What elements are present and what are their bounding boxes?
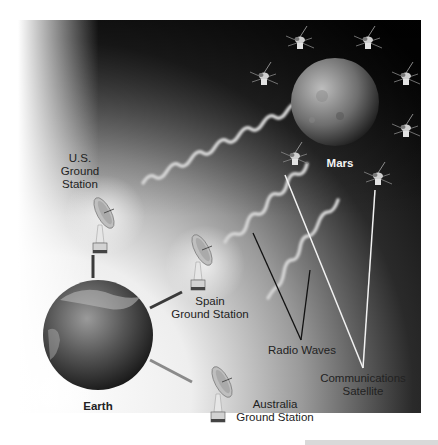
- us-ground-station-label: U.S. Ground Station: [55, 152, 105, 191]
- radio-waves-label: Radio Waves: [262, 344, 342, 357]
- mars-planet: [291, 58, 379, 146]
- earth-label: Earth: [70, 400, 126, 413]
- spain-ground-station-label: Spain Ground Station: [160, 295, 260, 321]
- mars-label: Mars: [320, 157, 360, 170]
- communications-satellite-label: Communications Satellite: [312, 372, 414, 398]
- bottom-strip: [305, 440, 438, 445]
- australia-ground-station-label: Australia Ground Station: [225, 398, 325, 424]
